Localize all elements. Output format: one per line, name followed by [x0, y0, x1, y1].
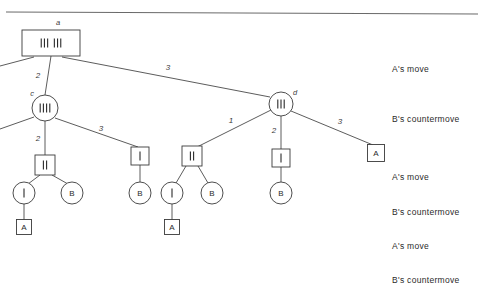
node-letter-label: B [209, 189, 214, 198]
row-a-move-3: A's move [392, 241, 429, 251]
edge-g-l [176, 166, 186, 183]
row-a-move-1: A's move [392, 64, 429, 74]
node-i[interactable] [13, 182, 35, 204]
edge-e-j [52, 175, 68, 184]
edge-line [28, 175, 40, 184]
node-letter-label: A [21, 223, 27, 232]
edge-root-left-cut [0, 57, 34, 66]
node-e[interactable] [35, 155, 55, 175]
row-b-counter-3: B's countermove [392, 275, 460, 285]
node-circle[interactable] [32, 95, 58, 121]
node-j[interactable]: B [61, 182, 83, 204]
edge-e-i [28, 175, 40, 184]
row-b-counter-1: B's countermove [392, 114, 460, 124]
node-letter-label: A [169, 223, 175, 232]
node-l[interactable] [161, 182, 183, 204]
edge-line [45, 56, 51, 95]
node-k[interactable]: B [129, 182, 151, 204]
node-h[interactable] [272, 149, 290, 167]
edge-line [55, 118, 138, 147]
edge-root-c: 2 [35, 56, 51, 95]
node-g[interactable] [182, 146, 202, 166]
edge-line [52, 175, 68, 184]
node-box[interactable] [182, 146, 202, 166]
edge-weight-label: 3 [99, 124, 104, 133]
node-o[interactable]: A [17, 220, 32, 235]
edge-weight-label: 3 [338, 117, 343, 126]
figure-canvas: 2323123acdBBBBAAA A's moveB's countermov… [0, 0, 496, 301]
node-identifier-label: a [56, 18, 60, 27]
edge-weight-label: 2 [35, 71, 41, 80]
node-letter-label: A [373, 149, 379, 158]
edge-line [291, 111, 373, 145]
node-letter-label: B [278, 189, 283, 198]
node-root[interactable]: a [22, 18, 80, 56]
edge-line [198, 166, 208, 183]
edge-c-e: 2 [35, 121, 45, 155]
edge-line [0, 57, 34, 66]
edge-c-left-cut [0, 117, 34, 129]
edge-d-q: 3 [291, 111, 373, 145]
edge-d-h: 2 [271, 116, 281, 149]
node-letter-label: B [69, 189, 74, 198]
edge-weight-label: 3 [166, 63, 171, 72]
node-identifier-label: d [293, 88, 298, 97]
edge-line [176, 166, 186, 183]
node-box[interactable] [22, 30, 80, 56]
node-m[interactable]: B [201, 182, 223, 204]
row-b-counter-2: B's countermove [392, 207, 460, 217]
edge-root-d: 3 [62, 57, 270, 97]
node-q[interactable]: A [368, 145, 385, 162]
edge-line [0, 117, 34, 129]
game-tree-diagram: 2323123acdBBBBAAA [0, 0, 496, 301]
node-identifier-label: c [30, 89, 34, 98]
row-a-move-2: A's move [392, 172, 429, 182]
edge-weight-label: 1 [229, 116, 233, 125]
edge-weight-label: 2 [271, 126, 277, 135]
edge-g-m [198, 166, 208, 183]
edge-d-g: 1 [197, 110, 271, 147]
node-c[interactable]: c [30, 89, 58, 121]
node-letter-label: B [137, 189, 142, 198]
top-divider-rule [6, 12, 478, 14]
node-n[interactable]: B [270, 182, 292, 204]
edge-c-f: 3 [55, 118, 138, 147]
edge-line [197, 110, 271, 147]
node-f[interactable] [131, 147, 149, 165]
node-p[interactable]: A [165, 220, 180, 235]
node-box[interactable] [35, 155, 55, 175]
edge-weight-label: 2 [35, 134, 41, 143]
